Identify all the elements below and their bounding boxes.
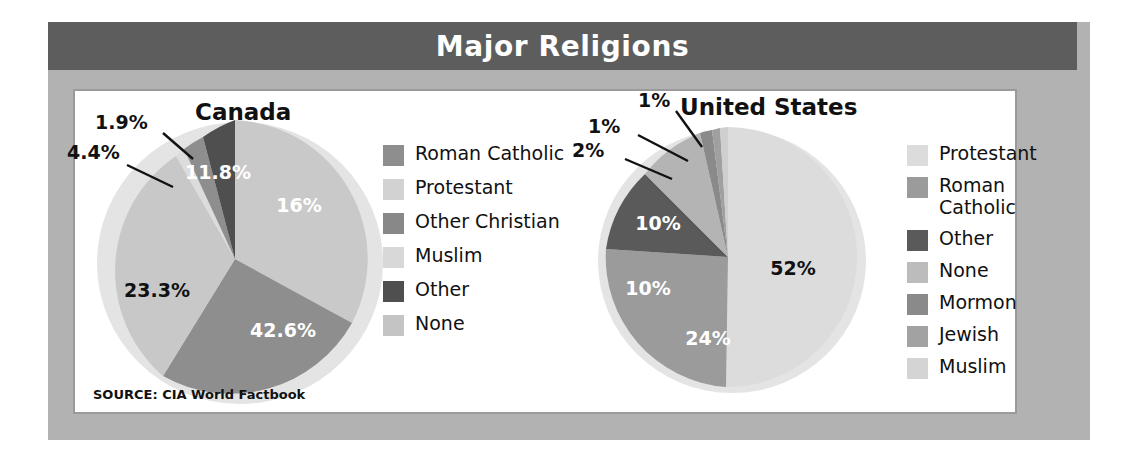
canada-legend: Roman Catholic Protestant Other Christia… [383, 143, 564, 336]
legend-label-mormon: Mormon [939, 292, 1017, 314]
canada-label-roman-catholic: 42.6% [250, 319, 316, 341]
legend-item-roman-catholic[interactable]: Roman Catholic [907, 175, 1037, 219]
legend-item-none[interactable]: None [907, 260, 1037, 283]
legend-swatch-roman-catholic [907, 177, 928, 198]
legend-label-other: Other [939, 228, 993, 250]
legend-item-mormon[interactable]: Mormon [907, 292, 1037, 315]
canada-label-other-christian: 4.4% [67, 141, 120, 163]
legend-swatch-protestant [383, 179, 404, 200]
us-pie-chart: United States 52% 24% 10% [575, 91, 1019, 412]
legend-label-roman-catholic: Roman Catholic [415, 143, 564, 165]
legend-item-other[interactable]: Other [383, 279, 564, 302]
legend-item-muslim[interactable]: Muslim [383, 245, 564, 268]
source-note: SOURCE: CIA World Factbook [93, 387, 305, 402]
legend-swatch-other-christian [383, 213, 404, 234]
legend-label-muslim: Muslim [939, 356, 1006, 378]
us-label-roman-catholic: 24% [685, 327, 730, 349]
legend-label-protestant: Protestant [939, 143, 1037, 165]
us-label-other: 10% [625, 277, 670, 299]
page-title: Major Religions [436, 30, 689, 63]
legend-label-jewish: Jewish [939, 324, 999, 346]
legend-item-other[interactable]: Other [907, 228, 1037, 251]
canada-label-muslim: 1.9% [95, 111, 148, 133]
major-religions-figure: Major Religions Canada [0, 0, 1136, 469]
legend-label-none: None [939, 260, 989, 282]
legend-label-muslim: Muslim [415, 245, 482, 267]
legend-swatch-roman-catholic [383, 145, 404, 166]
legend-item-muslim[interactable]: Muslim [907, 356, 1037, 379]
legend-swatch-none [383, 315, 404, 336]
legend-swatch-muslim [907, 358, 928, 379]
us-slice-roman-catholic [606, 249, 728, 387]
canada-pie-svg: 16% 42.6% 23.3% 11.8% 1.9% 4.4% [85, 111, 405, 411]
us-label-protestant: 52% [770, 257, 815, 279]
legend-item-protestant[interactable]: Protestant [383, 177, 564, 200]
legend-label-roman-catholic: Roman Catholic [939, 175, 1016, 219]
us-label-mormon: 2% [572, 139, 604, 161]
legend-item-jewish[interactable]: Jewish [907, 324, 1037, 347]
us-legend: Protestant Roman Catholic Other None Mor… [907, 143, 1037, 379]
us-label-jewish: 1% [588, 115, 620, 137]
legend-item-protestant[interactable]: Protestant [907, 143, 1037, 166]
legend-item-other-christian[interactable]: Other Christian [383, 211, 564, 234]
legend-label-other: Other [415, 279, 469, 301]
canada-pie-chart: Canada 16% 42.6% 23.3% [75, 91, 575, 412]
legend-item-none[interactable]: None [383, 313, 564, 336]
us-pie-svg: 52% 24% 10% 10% 2% 1% 1% [580, 109, 900, 409]
legend-swatch-muslim [383, 247, 404, 268]
chart-panel: Canada 16% 42.6% 23.3% [73, 89, 1017, 414]
legend-swatch-none [907, 262, 928, 283]
canada-label-none: 23.3% [124, 279, 190, 301]
legend-label-other-christian: Other Christian [415, 211, 560, 233]
legend-swatch-protestant [907, 145, 928, 166]
title-band: Major Religions [48, 22, 1077, 70]
legend-swatch-jewish [907, 326, 928, 347]
canada-label-other: 11.8% [185, 161, 251, 183]
legend-label-none: None [415, 313, 465, 335]
canada-label-protestant: 16% [276, 194, 321, 216]
legend-swatch-other [907, 230, 928, 251]
legend-item-roman-catholic[interactable]: Roman Catholic [383, 143, 564, 166]
legend-swatch-other [383, 281, 404, 302]
legend-label-protestant: Protestant [415, 177, 513, 199]
legend-swatch-mormon [907, 294, 928, 315]
us-label-none: 10% [635, 212, 680, 234]
us-label-muslim: 1% [638, 89, 670, 111]
